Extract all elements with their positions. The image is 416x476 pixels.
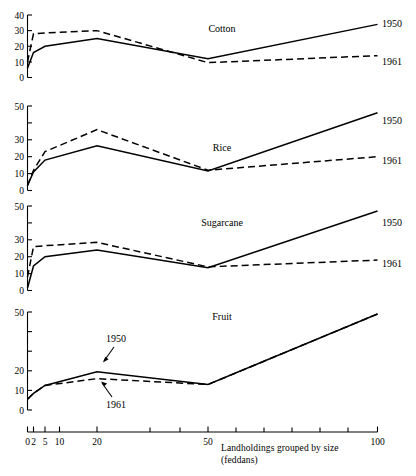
sugarcane-ytick-0: 0 (19, 286, 24, 296)
panel-rice-plot: 50 30 20 10 0 Rice 1950 1961 (0, 98, 416, 198)
sugarcane-y-tick-labels: 50 30 20 10 0 (15, 202, 25, 296)
fruit-annotation-1961-label: 1961 (106, 399, 126, 410)
x-tick-label-20: 20 (92, 437, 102, 447)
fruit-annotation-1950-arrow (103, 347, 114, 363)
x-tick-label-2: 2 (31, 437, 36, 447)
fruit-ytick-0: 0 (19, 406, 24, 416)
rice-label-1961: 1961 (382, 155, 402, 166)
fruit-y-tick-labels: 50 20 10 0 (15, 308, 25, 416)
fruit-ytick-50: 50 (15, 308, 25, 318)
sugarcane-ytick-20: 20 (15, 252, 25, 262)
sugarcane-title: Sugarcane (201, 217, 243, 228)
x-tick-label-100: 100 (370, 437, 385, 447)
panel-sugarcane: 50 30 20 10 0 Sugarcane 1950 1961 (0, 198, 416, 298)
cotton-ytick-10: 10 (15, 58, 25, 68)
rice-y-tick-labels: 50 30 20 10 0 (15, 102, 25, 196)
panel-rice: 50 30 20 10 0 Rice 1950 1961 (0, 98, 416, 198)
rice-series-1961-line (28, 130, 378, 186)
fruit-ytick-10: 10 (15, 386, 25, 396)
cotton-label-1961: 1961 (382, 56, 402, 67)
sugarcane-ytick-10: 10 (15, 269, 25, 279)
rice-title: Rice (213, 142, 232, 153)
fruit-annotation-1961-arrow (101, 382, 112, 398)
fruit-ytick-20: 20 (15, 366, 25, 376)
fruit-annotation-1950-label: 1950 (106, 333, 126, 344)
fruit-series-1961-line (28, 314, 378, 399)
cotton-ytick-40: 40 (15, 11, 25, 21)
fruit-series-1950-line (28, 314, 378, 399)
cotton-ytick-0: 0 (19, 73, 24, 83)
cotton-ytick-30: 30 (15, 26, 25, 36)
cotton-title: Cotton (208, 23, 235, 34)
rice-ytick-30: 30 (15, 135, 25, 145)
x-tick-label-50: 50 (203, 437, 213, 447)
sugarcane-ytick-30: 30 (15, 235, 25, 245)
x-axis-ticks (28, 427, 378, 433)
rice-y-ticks (28, 123, 33, 174)
fruit-title: Fruit (212, 311, 232, 322)
rice-ytick-10: 10 (15, 169, 25, 179)
rice-series-1950-line (28, 113, 378, 186)
panel-fruit: 50 20 10 0 Fruit 1950 1961 (0, 298, 416, 422)
rice-label-1950: 1950 (382, 115, 402, 126)
cotton-label-1950: 1950 (382, 18, 402, 29)
x-tick-label-5: 5 (43, 437, 48, 447)
panel-cotton: 40 30 20 10 0 Cotton 1950 1961 (0, 0, 416, 98)
rice-ytick-20: 20 (15, 152, 25, 162)
sugarcane-series-1961-line (28, 242, 378, 277)
panel-sugarcane-plot: 50 30 20 10 0 Sugarcane 1950 1961 (0, 198, 416, 298)
rice-ytick-50: 50 (15, 102, 25, 112)
rice-ytick-0: 0 (19, 186, 24, 196)
cotton-y-tick-labels: 40 30 20 10 0 (15, 11, 25, 84)
sugarcane-ytick-50: 50 (15, 202, 25, 212)
cotton-ytick-20: 20 (15, 42, 25, 52)
panel-cotton-plot: 40 30 20 10 0 Cotton 1950 1961 (0, 0, 416, 98)
x-axis-caption: Landholdings grouped by size (feddans) (221, 443, 371, 466)
sugarcane-label-1961: 1961 (382, 258, 402, 269)
fruit-y-ticks (28, 332, 33, 391)
x-tick-label-0: 0 (25, 437, 30, 447)
x-tick-label-10: 10 (55, 437, 65, 447)
panel-fruit-plot: 50 20 10 0 Fruit 1950 1961 (0, 298, 416, 422)
figure-landholdings-crop-shares: 40 30 20 10 0 Cotton 1950 1961 (0, 0, 416, 476)
sugarcane-label-1950: 1950 (382, 217, 402, 228)
